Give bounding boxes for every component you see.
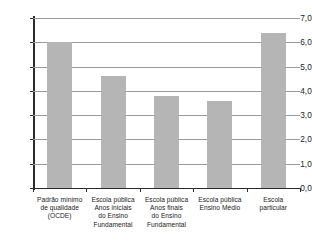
category-label-line: Ensino Médio xyxy=(193,204,246,212)
bar xyxy=(207,101,232,188)
x-axis-category-label: Escola públicaAnos iniciaisdo EnsinoFund… xyxy=(86,196,139,229)
x-axis-category-label: Padrão mínimode qualidade(OCDE) xyxy=(33,196,86,221)
x-axis-tick-mark xyxy=(140,188,141,192)
category-label-line: (OCDE) xyxy=(33,212,86,220)
bar xyxy=(261,33,286,188)
bar xyxy=(47,42,72,188)
category-label-line: Fundamental xyxy=(86,221,139,229)
plot-area xyxy=(33,18,300,188)
category-label-line: Anos finais xyxy=(140,204,193,212)
x-axis-tick-mark xyxy=(300,188,301,192)
x-axis-tick-mark xyxy=(33,188,34,192)
category-label-line: do Ensino xyxy=(140,212,193,220)
category-label-line: Escola pública xyxy=(193,196,246,204)
bar xyxy=(154,96,179,188)
bar-chart: 0,01,02,03,04,05,06,07,0 Padrão mínimode… xyxy=(0,0,312,244)
category-label-line: Escola xyxy=(247,196,300,204)
x-axis-tick-mark xyxy=(86,188,87,192)
x-axis-category-label: Escola públicaEnsino Médio xyxy=(193,196,246,212)
category-label-line: do Ensino xyxy=(86,212,139,220)
category-label-line: Anos iniciais xyxy=(86,204,139,212)
category-label-line: particular xyxy=(247,204,300,212)
gridline xyxy=(33,18,300,19)
x-axis-category-label: Escolaparticular xyxy=(247,196,300,212)
category-label-line: Escola pública xyxy=(86,196,139,204)
category-label-line: Escola pública xyxy=(140,196,193,204)
category-label-line: Padrão mínimo xyxy=(33,196,86,204)
category-label-line: Fundamental xyxy=(140,221,193,229)
bar xyxy=(101,76,126,188)
x-axis-category-label: Escola públicaAnos finaisdo EnsinoFundam… xyxy=(140,196,193,229)
x-axis-tick-mark xyxy=(193,188,194,192)
x-axis-line xyxy=(33,188,300,189)
category-label-line: de qualidade xyxy=(33,204,86,212)
x-axis-tick-mark xyxy=(247,188,248,192)
